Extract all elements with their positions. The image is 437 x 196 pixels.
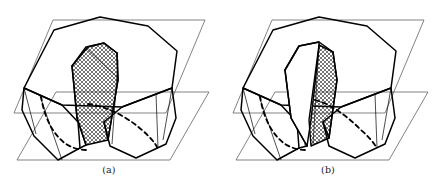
right-inner-edge-a xyxy=(156,94,158,148)
figure-panel-b: (b) xyxy=(219,0,437,196)
panel-a-drawing xyxy=(0,0,218,170)
panel-b-caption: (b) xyxy=(219,164,437,176)
notch-left-edge-a xyxy=(80,145,86,148)
panel-a-caption: (a) xyxy=(0,164,218,176)
figure-panel-a: (a) xyxy=(0,0,218,196)
left-lobe-polygon-a xyxy=(22,88,80,160)
right-inner-edge-b xyxy=(375,94,377,148)
notch-left-edge-b xyxy=(299,146,307,148)
figure-root: (a) xyxy=(0,0,437,196)
panel-b-drawing xyxy=(219,0,437,170)
